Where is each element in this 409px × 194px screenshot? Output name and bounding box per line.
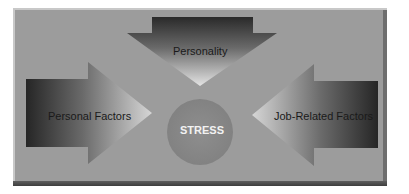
label-personality: Personality: [173, 45, 227, 57]
label-personal-factors: Personal Factors: [48, 110, 131, 122]
label-job-related-factors: Job-Related Factors: [274, 110, 373, 122]
stress-diagram: [0, 0, 409, 194]
label-stress: STRESS: [180, 124, 224, 136]
